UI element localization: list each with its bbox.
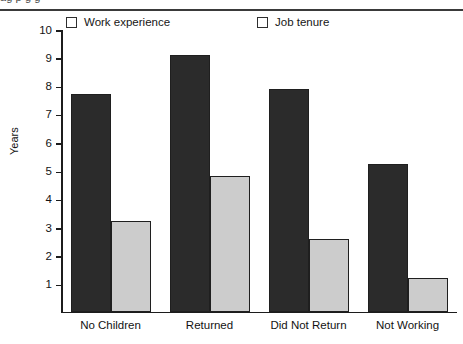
y-axis-tick-label: 4 bbox=[46, 192, 52, 206]
y-axis-tick: 7 bbox=[56, 115, 61, 117]
bar bbox=[210, 176, 250, 312]
y-axis-tick-label: 8 bbox=[46, 79, 52, 93]
clipped-header-text: ag p g g bbox=[0, 0, 463, 4]
bar bbox=[170, 55, 210, 311]
x-axis-category-label: No Children bbox=[80, 318, 141, 332]
y-axis-tick-label: 3 bbox=[46, 221, 52, 235]
bar-chart-figure: ag p g g Work experience Job tenure Year… bbox=[0, 0, 463, 344]
x-axis-line bbox=[61, 312, 457, 314]
bar bbox=[111, 221, 151, 312]
y-axis-tick: 10 bbox=[56, 30, 61, 32]
legend-label-job-tenure: Job tenure bbox=[275, 16, 329, 28]
y-axis-tick: 1 bbox=[56, 285, 61, 287]
bar bbox=[309, 239, 349, 311]
chart-legend: Work experience Job tenure bbox=[0, 15, 463, 31]
y-axis-tick-label: 9 bbox=[46, 51, 52, 65]
legend-swatch-job-tenure bbox=[257, 17, 268, 28]
plot-area: 10987654321 bbox=[61, 30, 457, 313]
x-axis-category-label: Did Not Return bbox=[270, 318, 346, 332]
y-axis-tick-label: 1 bbox=[46, 277, 52, 291]
x-axis-category-label: Returned bbox=[186, 318, 233, 332]
y-axis-tick-label: 5 bbox=[46, 164, 52, 178]
legend-item-work-experience: Work experience bbox=[66, 15, 170, 29]
x-axis-category-label: Not Working bbox=[376, 318, 439, 332]
bar bbox=[368, 164, 408, 311]
bar bbox=[269, 89, 309, 311]
legend-item-job-tenure: Job tenure bbox=[257, 15, 329, 29]
y-axis-tick: 3 bbox=[56, 228, 61, 230]
y-axis-tick: 8 bbox=[56, 87, 61, 89]
y-axis-line bbox=[61, 30, 63, 313]
bar bbox=[408, 278, 448, 312]
y-axis-tick-label: 2 bbox=[46, 249, 52, 263]
y-axis-tick-label: 6 bbox=[46, 136, 52, 150]
y-axis-tick: 5 bbox=[56, 172, 61, 174]
y-axis-tick-label: 7 bbox=[46, 107, 52, 121]
y-axis-tick: 4 bbox=[56, 200, 61, 202]
legend-swatch-work-experience bbox=[66, 17, 77, 28]
bar bbox=[71, 94, 111, 312]
y-axis-tick: 2 bbox=[56, 256, 61, 258]
header-divider bbox=[0, 9, 463, 11]
y-axis-tick: 6 bbox=[56, 143, 61, 145]
y-axis-tick-label: 10 bbox=[39, 23, 52, 37]
y-axis-tick: 9 bbox=[56, 58, 61, 60]
y-axis-title: Years bbox=[8, 127, 20, 155]
legend-label-work-experience: Work experience bbox=[84, 16, 170, 28]
